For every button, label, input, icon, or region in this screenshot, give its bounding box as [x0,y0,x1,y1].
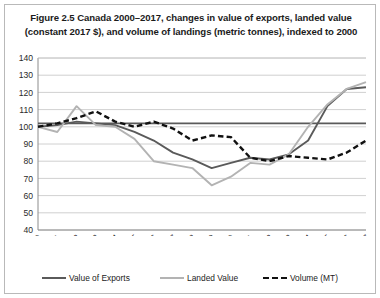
y-axis-tick-labels: 405060708090100110120130140 [19,53,34,235]
svg-text:2002: 2002 [61,232,81,236]
svg-text:70: 70 [23,174,33,184]
svg-text:2004: 2004 [100,232,120,236]
x-axis-tick-labels: 2000200120022003200420052006200720082009… [23,232,371,236]
svg-text:2001: 2001 [42,232,62,236]
svg-text:2017: 2017 [351,232,371,236]
svg-text:2005: 2005 [119,232,139,236]
figure-container: Figure 2.5 Canada 2000–2017, changes in … [4,4,376,294]
svg-text:120: 120 [19,88,34,98]
legend-item-volume-mt: Volume (MT) [263,273,338,283]
plot-area: 405060708090100110120130140 200020012002… [5,46,377,236]
svg-text:80: 80 [23,156,33,166]
legend-item-value-of-exports: Value of Exports [42,273,130,283]
svg-text:110: 110 [19,105,33,115]
legend-swatch-volume-mt [263,277,287,279]
svg-text:2014: 2014 [293,232,313,236]
svg-text:2011: 2011 [235,232,255,236]
chart-legend: Value of Exports Landed Value Volume (MT… [5,271,377,291]
line-chart-svg: 405060708090100110120130140 200020012002… [5,46,377,236]
legend-swatch-landed-value [160,277,184,279]
legend-label-volume-mt: Volume (MT) [290,273,338,283]
svg-text:40: 40 [23,225,33,235]
svg-text:2006: 2006 [138,232,158,236]
svg-text:2012: 2012 [254,232,274,236]
svg-text:60: 60 [23,191,33,201]
legend-label-landed-value: Landed Value [187,273,238,283]
legend-label-value-of-exports: Value of Exports [69,273,130,283]
gridlines [38,58,366,230]
svg-text:2015: 2015 [312,232,332,236]
svg-text:2010: 2010 [216,232,236,236]
svg-text:90: 90 [23,139,33,149]
data-series [38,82,366,185]
svg-text:2013: 2013 [273,232,293,236]
legend-item-landed-value: Landed Value [160,273,238,283]
svg-text:2008: 2008 [177,232,197,236]
svg-text:140: 140 [19,53,34,63]
svg-text:100: 100 [19,122,34,132]
svg-text:2009: 2009 [196,232,216,236]
svg-text:50: 50 [23,208,33,218]
svg-text:2003: 2003 [81,232,101,236]
svg-text:2007: 2007 [158,232,178,236]
legend-swatch-value-of-exports [42,277,66,279]
figure-title: Figure 2.5 Canada 2000–2017, changes in … [13,11,369,38]
svg-text:2016: 2016 [331,232,351,236]
svg-text:130: 130 [19,70,34,80]
